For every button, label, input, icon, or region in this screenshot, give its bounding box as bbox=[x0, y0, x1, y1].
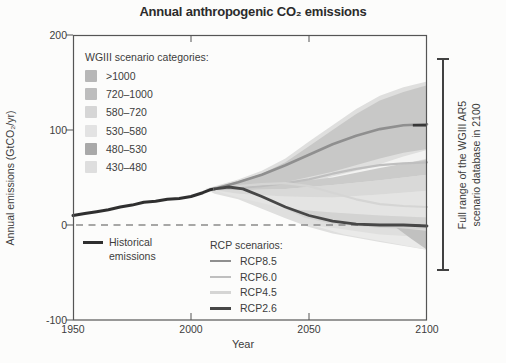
legend-wgiii-item: >1000 bbox=[85, 67, 209, 85]
figure-annual-co2-emissions: Annual anthropogenic CO₂ emissions 20010… bbox=[0, 0, 506, 363]
legend-wgiii-item: 530–580 bbox=[85, 122, 209, 140]
ytick-label-100: 100 bbox=[33, 124, 67, 136]
wgiii-swatch bbox=[85, 125, 97, 137]
range-bracket-label-line1: Full range of the WGIII AR5 bbox=[456, 47, 470, 283]
wgiii-swatch-label: 530–580 bbox=[106, 125, 147, 137]
rcp-line-swatch bbox=[210, 291, 231, 293]
legend-rcp-rows: RCP8.5RCP6.0RCP4.5RCP2.6 bbox=[210, 253, 283, 316]
historical-label-line2: emissions bbox=[109, 250, 156, 264]
rcp-line-label: RCP6.0 bbox=[240, 271, 277, 283]
wgiii-swatch bbox=[85, 106, 97, 118]
series-historical-emissions bbox=[73, 189, 215, 216]
historical-line-swatch bbox=[83, 241, 103, 244]
historical-label-line1: Historical bbox=[109, 236, 156, 250]
wgiii-swatch-label: 480–530 bbox=[106, 143, 147, 155]
legend-wgiii-rows: >1000720–1000580–720530–580480–530430–48… bbox=[85, 67, 209, 176]
rcp-line-swatch bbox=[210, 307, 231, 310]
rcp-line-label: RCP4.5 bbox=[240, 286, 277, 298]
ytick-label-200: 200 bbox=[33, 29, 67, 41]
wgiii-swatch bbox=[85, 70, 97, 82]
xtick-label-2000: 2000 bbox=[169, 323, 213, 335]
legend-rcp-scenarios: RCP scenarios: RCP8.5RCP6.0RCP4.5RCP2.6 bbox=[210, 239, 283, 316]
wgiii-swatch bbox=[85, 161, 97, 173]
y-axis-title: Annual emissions (GtCO₂/yr) bbox=[4, 68, 18, 288]
legend-rcp-title: RCP scenarios: bbox=[210, 239, 283, 251]
ytick-label-0: 0 bbox=[33, 219, 67, 231]
xtick-label-2050: 2050 bbox=[287, 323, 331, 335]
legend-rcp-item: RCP8.5 bbox=[210, 253, 283, 269]
wgiii-swatch-label: 580–720 bbox=[106, 106, 147, 118]
rcp-line-swatch bbox=[210, 260, 231, 263]
legend-wgiii-title: WGIII scenario categories: bbox=[85, 51, 209, 63]
legend-wgiii-categories: WGIII scenario categories: >1000720–1000… bbox=[85, 51, 209, 176]
wgiii-swatch bbox=[85, 88, 97, 100]
range-bracket-cap-bottom bbox=[437, 269, 449, 271]
legend-rcp-item: RCP6.0 bbox=[210, 269, 283, 285]
legend-rcp-item: RCP4.5 bbox=[210, 285, 283, 301]
legend-wgiii-item: 580–720 bbox=[85, 103, 209, 121]
legend-historical: Historical emissions bbox=[83, 236, 156, 263]
xtick-label-1950: 1950 bbox=[51, 323, 95, 335]
historical-label: Historical emissions bbox=[109, 236, 156, 263]
wgiii-swatch-label: >1000 bbox=[106, 70, 136, 82]
xtick-label-2100: 2100 bbox=[405, 323, 449, 335]
legend-wgiii-item: 720–1000 bbox=[85, 85, 209, 103]
legend-rcp-item: RCP2.6 bbox=[210, 300, 283, 316]
range-bracket-label: Full range of the WGIII AR5 scenario dat… bbox=[456, 47, 484, 283]
rcp-line-label: RCP2.6 bbox=[240, 302, 277, 314]
rcp-line-swatch bbox=[210, 276, 231, 278]
wgiii-swatch bbox=[85, 143, 97, 155]
rcp-line-label: RCP8.5 bbox=[240, 255, 277, 267]
wgiii-swatch-label: 720–1000 bbox=[106, 88, 153, 100]
range-bracket-cap-top bbox=[437, 58, 449, 60]
range-bracket-line bbox=[442, 59, 444, 271]
legend-wgiii-item: 430–480 bbox=[85, 158, 209, 176]
x-axis-title: Year bbox=[221, 338, 265, 350]
range-bracket-label-line2: scenario database in 2100 bbox=[470, 47, 484, 283]
legend-wgiii-item: 480–530 bbox=[85, 140, 209, 158]
wgiii-swatch-label: 430–480 bbox=[106, 161, 147, 173]
